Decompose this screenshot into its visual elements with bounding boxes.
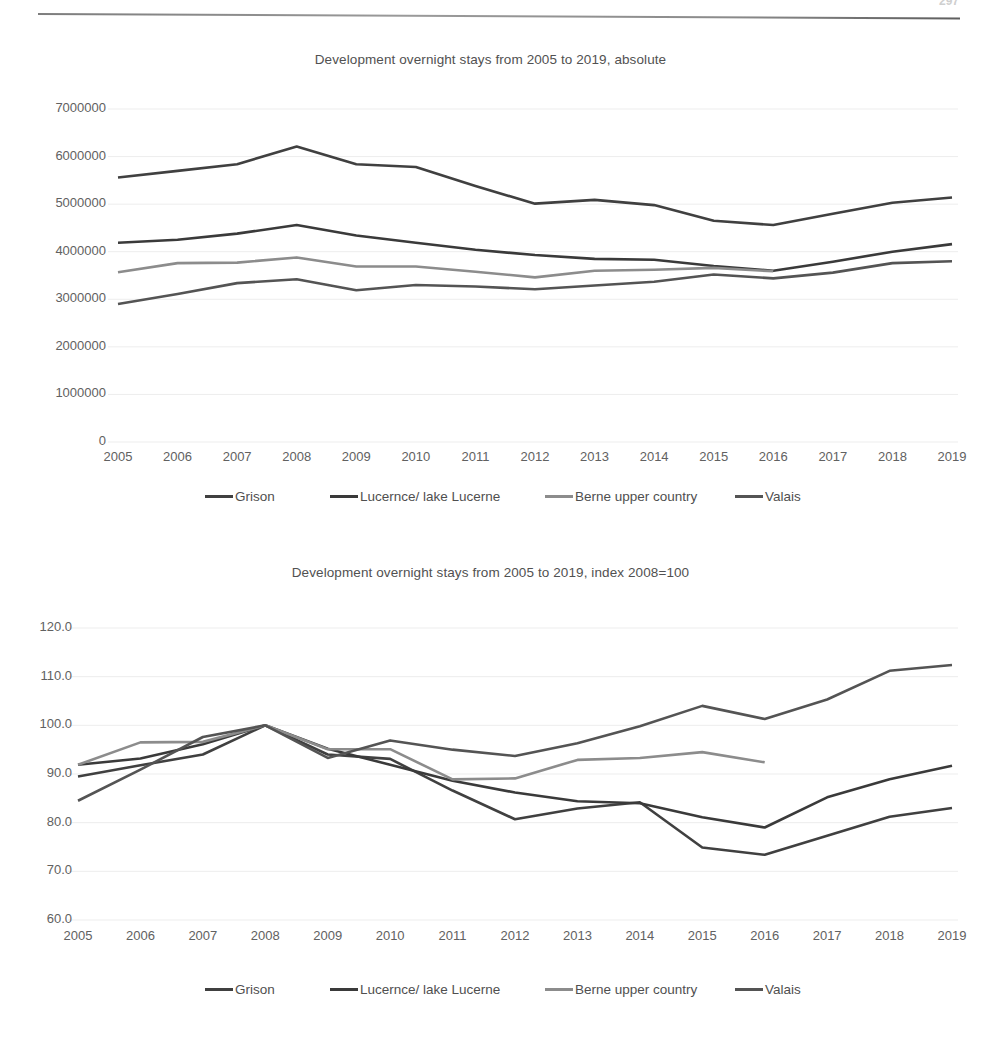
legend-label: Valais bbox=[765, 489, 801, 504]
x-axis-tick-label: 2012 bbox=[505, 449, 565, 464]
legend-item-grison[interactable]: Grison bbox=[205, 489, 275, 504]
x-axis-tick-label: 2009 bbox=[298, 928, 358, 943]
x-axis-tick-label: 2015 bbox=[684, 449, 744, 464]
x-axis-tick-label: 2007 bbox=[207, 449, 267, 464]
legend-item-grison[interactable]: Grison bbox=[205, 982, 275, 997]
series-line-valais bbox=[78, 665, 952, 801]
x-axis-tick-label: 2019 bbox=[922, 449, 981, 464]
x-axis-tick-label: 2018 bbox=[860, 928, 920, 943]
x-axis-tick-label: 2009 bbox=[326, 449, 386, 464]
legend-color-swatch bbox=[205, 495, 233, 498]
y-axis-tick-label: 1000000 bbox=[20, 385, 106, 400]
x-axis-tick-label: 2015 bbox=[672, 928, 732, 943]
legend-item-berne-upper-country[interactable]: Berne upper country bbox=[545, 982, 697, 997]
legend-absolute: GrisonLucernce/ lake LucerneBerne upper … bbox=[0, 487, 981, 513]
y-axis-tick-label: 3000000 bbox=[20, 290, 106, 305]
legend-label: Lucernce/ lake Lucerne bbox=[360, 982, 500, 997]
legend-color-swatch bbox=[330, 495, 358, 498]
x-axis-tick-label: 2012 bbox=[485, 928, 545, 943]
y-axis-tick-label: 5000000 bbox=[20, 195, 106, 210]
legend-color-swatch bbox=[735, 988, 763, 991]
y-axis-tick-label: 90.0 bbox=[14, 765, 72, 780]
y-axis-tick-label: 110.0 bbox=[14, 668, 72, 683]
legend-item-lucernce-lake-lucerne[interactable]: Lucernce/ lake Lucerne bbox=[330, 982, 500, 997]
series-line-grison bbox=[78, 725, 952, 854]
y-axis-tick-label: 7000000 bbox=[20, 100, 106, 115]
x-axis-tick-label: 2011 bbox=[445, 449, 505, 464]
y-axis-tick-label: 4000000 bbox=[20, 243, 106, 258]
legend-color-swatch bbox=[330, 988, 358, 991]
y-axis-tick-label: 2000000 bbox=[20, 338, 106, 353]
series-line-valais bbox=[118, 261, 952, 304]
legend-color-swatch bbox=[545, 988, 573, 991]
y-axis-tick-label: 0 bbox=[20, 433, 106, 448]
line-chart-index bbox=[0, 580, 981, 980]
series-line-berne-upper-country bbox=[78, 725, 765, 779]
series-line-berne-upper-country bbox=[118, 257, 773, 277]
series-line-lucernce-lake-lucerne bbox=[118, 225, 952, 271]
x-axis-tick-label: 2008 bbox=[235, 928, 295, 943]
legend-label: Grison bbox=[235, 982, 275, 997]
legend-label: Berne upper country bbox=[575, 982, 697, 997]
y-axis-tick-label: 60.0 bbox=[14, 911, 72, 926]
x-axis-tick-label: 2010 bbox=[360, 928, 420, 943]
figure-absolute-stays: Development overnight stays from 2005 to… bbox=[0, 52, 981, 552]
x-axis-tick-label: 2008 bbox=[267, 449, 327, 464]
header-rule bbox=[38, 13, 960, 20]
x-axis-tick-label: 2017 bbox=[803, 449, 863, 464]
x-axis-tick-label: 2010 bbox=[386, 449, 446, 464]
x-axis-tick-label: 2016 bbox=[735, 928, 795, 943]
x-axis-tick-label: 2018 bbox=[862, 449, 922, 464]
y-axis-tick-label: 100.0 bbox=[14, 716, 72, 731]
legend-label: Grison bbox=[235, 489, 275, 504]
x-axis-tick-label: 2019 bbox=[922, 928, 981, 943]
x-axis-tick-label: 2006 bbox=[148, 449, 208, 464]
x-axis-tick-label: 2016 bbox=[743, 449, 803, 464]
x-axis-tick-label: 2014 bbox=[624, 449, 684, 464]
plot-area-absolute: 7000000600000050000004000000300000020000… bbox=[0, 67, 981, 487]
line-chart-absolute bbox=[0, 67, 981, 487]
x-axis-tick-label: 2014 bbox=[610, 928, 670, 943]
y-axis-tick-label: 80.0 bbox=[14, 814, 72, 829]
x-axis-tick-label: 2017 bbox=[797, 928, 857, 943]
legend-index: GrisonLucernce/ lake LucerneBerne upper … bbox=[0, 980, 981, 1006]
page-header: 297 bbox=[0, 0, 981, 24]
legend-label: Berne upper country bbox=[575, 489, 697, 504]
legend-label: Valais bbox=[765, 982, 801, 997]
legend-item-lucernce-lake-lucerne[interactable]: Lucernce/ lake Lucerne bbox=[330, 489, 500, 504]
legend-item-valais[interactable]: Valais bbox=[735, 982, 801, 997]
x-axis-tick-label: 2005 bbox=[88, 449, 148, 464]
y-axis-tick-label: 6000000 bbox=[20, 148, 106, 163]
x-axis-tick-label: 2006 bbox=[110, 928, 170, 943]
chart-title-index: Development overnight stays from 2005 to… bbox=[0, 565, 981, 580]
x-axis-tick-label: 2007 bbox=[173, 928, 233, 943]
page-number: 297 bbox=[939, 0, 959, 8]
legend-item-berne-upper-country[interactable]: Berne upper country bbox=[545, 489, 697, 504]
legend-label: Lucernce/ lake Lucerne bbox=[360, 489, 500, 504]
x-axis-tick-label: 2011 bbox=[423, 928, 483, 943]
x-axis-tick-label: 2013 bbox=[565, 449, 625, 464]
legend-item-valais[interactable]: Valais bbox=[735, 489, 801, 504]
legend-color-swatch bbox=[735, 495, 763, 498]
x-axis-tick-label: 2005 bbox=[48, 928, 108, 943]
legend-color-swatch bbox=[545, 495, 573, 498]
plot-area-index: 120.0110.0100.090.080.070.060.0200520062… bbox=[0, 580, 981, 980]
chart-title-absolute: Development overnight stays from 2005 to… bbox=[0, 52, 981, 67]
legend-color-swatch bbox=[205, 988, 233, 991]
figure-index-stays: Development overnight stays from 2005 to… bbox=[0, 565, 981, 1050]
y-axis-tick-label: 70.0 bbox=[14, 862, 72, 877]
series-line-grison bbox=[118, 147, 952, 225]
y-axis-tick-label: 120.0 bbox=[14, 619, 72, 634]
x-axis-tick-label: 2013 bbox=[547, 928, 607, 943]
